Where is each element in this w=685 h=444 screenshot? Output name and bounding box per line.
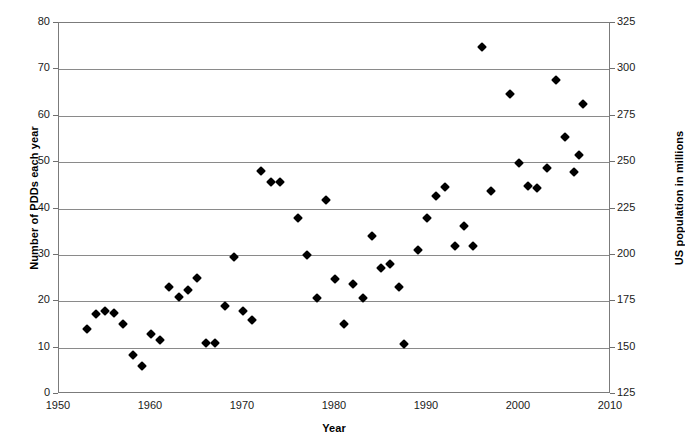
data-point (514, 158, 524, 168)
data-point (275, 177, 285, 187)
data-point (440, 182, 450, 192)
y-axis-right-tick-label: 300 (617, 61, 663, 73)
data-point (385, 259, 395, 269)
y-axis-right-tick-mark (610, 208, 615, 209)
y-axis-right-tick-mark (610, 254, 615, 255)
data-point (578, 99, 588, 109)
y-axis-left-tick-mark (53, 161, 58, 162)
data-point (413, 245, 423, 255)
data-point (574, 150, 584, 160)
data-point (155, 335, 165, 345)
gridline (59, 69, 609, 70)
data-point (486, 186, 496, 196)
data-point (220, 301, 230, 311)
data-point (229, 252, 239, 262)
y-axis-left-tick-label: 70 (6, 61, 50, 73)
data-point (238, 306, 248, 316)
data-point (394, 282, 404, 292)
y-axis-left-tick-mark (53, 115, 58, 116)
data-point (468, 241, 478, 251)
data-point (321, 195, 331, 205)
x-axis-tick-label: 1950 (28, 399, 88, 411)
y-axis-left-tick-mark (53, 208, 58, 209)
data-point (532, 183, 542, 193)
y-axis-left-tick-mark (53, 393, 58, 394)
data-point (192, 273, 202, 283)
data-point (348, 279, 358, 289)
y-axis-right-tick-label: 175 (617, 293, 663, 305)
data-point (560, 132, 570, 142)
data-point (109, 308, 119, 318)
y-axis-left-tick-label: 80 (6, 15, 50, 27)
y-axis-right-tick-mark (610, 115, 615, 116)
y-axis-left-tick-label: 10 (6, 340, 50, 352)
gridline (59, 301, 609, 302)
y-axis-right-tick-label: 225 (617, 201, 663, 213)
data-point (523, 181, 533, 191)
y-axis-left-tick-label: 20 (6, 293, 50, 305)
data-point (256, 166, 266, 176)
y-axis-left-tick-label: 50 (6, 154, 50, 166)
data-point (477, 42, 487, 52)
x-axis-tick-label: 1980 (304, 399, 364, 411)
y-axis-right-tick-label: 275 (617, 108, 663, 120)
gridline (59, 116, 609, 117)
gridline (59, 348, 609, 349)
y-axis-left-tick-label: 0 (6, 386, 50, 398)
data-point (146, 329, 156, 339)
data-point (459, 221, 469, 231)
y-axis-right-tick-mark (610, 393, 615, 394)
data-point (293, 213, 303, 223)
y-axis-left-tick-mark (53, 254, 58, 255)
x-axis-tick-label: 2000 (488, 399, 548, 411)
data-point (431, 191, 441, 201)
y-axis-left-tick-mark (53, 300, 58, 301)
data-point (422, 213, 432, 223)
x-axis-tick-label: 1960 (120, 399, 180, 411)
data-point (100, 306, 110, 316)
x-axis-tick-label: 1970 (212, 399, 272, 411)
y-axis-left-tick-label: 40 (6, 201, 50, 213)
y-axis-right-tick-mark (610, 22, 615, 23)
data-point (551, 75, 561, 85)
x-axis-tick-label: 2010 (580, 399, 640, 411)
x-axis-title: Year (58, 422, 610, 434)
gridline (59, 162, 609, 163)
data-point (339, 319, 349, 329)
data-point (137, 361, 147, 371)
data-point (569, 167, 579, 177)
y-axis-right-tick-label: 250 (617, 154, 663, 166)
y-axis-right-tick-mark (610, 68, 615, 69)
data-point (128, 350, 138, 360)
data-point (183, 285, 193, 295)
data-point (505, 89, 515, 99)
data-point (247, 315, 257, 325)
y-axis-right-tick-label: 125 (617, 386, 663, 398)
y-axis-right-title: US population in millions (673, 98, 685, 298)
plot-area (58, 22, 610, 393)
y-axis-left-tick-label: 60 (6, 108, 50, 120)
gridline (59, 209, 609, 210)
y-axis-left-title: Number of PDDs each year (28, 98, 40, 298)
data-point (302, 250, 312, 260)
y-axis-left-tick-label: 30 (6, 247, 50, 259)
gridline (59, 255, 609, 256)
data-point (82, 324, 92, 334)
y-axis-left-tick-mark (53, 68, 58, 69)
data-point (542, 163, 552, 173)
y-axis-right-tick-label: 325 (617, 15, 663, 27)
y-axis-right-tick-mark (610, 300, 615, 301)
y-axis-right-tick-mark (610, 161, 615, 162)
data-point (118, 319, 128, 329)
x-axis-tick-label: 1990 (396, 399, 456, 411)
data-point (367, 231, 377, 241)
data-point (210, 338, 220, 348)
data-point (450, 241, 460, 251)
y-axis-right-tick-label: 150 (617, 340, 663, 352)
data-point (164, 282, 174, 292)
y-axis-left-tick-mark (53, 347, 58, 348)
y-axis-right-tick-label: 200 (617, 247, 663, 259)
y-axis-right-tick-mark (610, 347, 615, 348)
data-point (330, 274, 340, 284)
